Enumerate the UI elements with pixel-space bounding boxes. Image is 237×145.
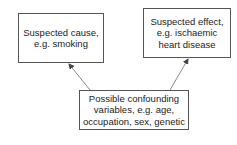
suspected-cause-box: Suspected cause, e.g. smoking (18, 13, 104, 63)
suspected-effect-box: Suspected effect, e.g. ischaemic heart d… (143, 8, 231, 58)
confounding-variables-label: Possible confounding variables, e.g. age… (83, 93, 185, 128)
suspected-cause-label: Suspected cause, e.g. smoking (23, 27, 99, 50)
confounding-variables-box: Possible confounding variables, e.g. age… (79, 90, 189, 130)
suspected-effect-label: Suspected effect, e.g. ischaemic heart d… (150, 16, 223, 51)
arrow-confounders-to-cause (69, 64, 90, 90)
arrow-confounders-to-effect (170, 59, 188, 90)
